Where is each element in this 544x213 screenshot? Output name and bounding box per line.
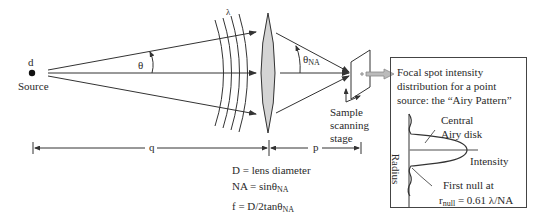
theta-arc xyxy=(150,52,153,73)
source-symbol: d xyxy=(28,56,34,68)
first-null-equation: rnull = 0.61 λ/NA xyxy=(439,194,513,210)
wavelength-label: λ xyxy=(226,6,230,18)
inset-caption: Focal spot intensity distribution for a … xyxy=(397,65,512,107)
equations: D = lens diameter NA = sinθNA f = D/2tan… xyxy=(232,162,311,213)
theta-na-label: θNA xyxy=(303,53,320,69)
theta-label: θ xyxy=(138,59,143,71)
distance-q: q xyxy=(147,141,157,153)
source-dot xyxy=(29,70,35,76)
eq-na: NA = sinθNA xyxy=(232,178,311,198)
output-rays xyxy=(276,33,349,113)
first-null-label: First null at xyxy=(443,179,494,191)
distance-p: p xyxy=(311,141,321,153)
lens xyxy=(261,13,275,133)
radius-label: Radius xyxy=(390,154,402,185)
eq-lens-diameter: D = lens diameter xyxy=(232,162,311,178)
intensity-label: Intensity xyxy=(470,155,509,167)
stage-label: Sample scanning stage xyxy=(330,106,369,145)
eq-focal-length: f = D/2tanθNA xyxy=(232,198,311,213)
theta-na-arc xyxy=(296,46,300,73)
source-label: Source xyxy=(18,80,49,92)
central-airy-label: Central Airy disk xyxy=(441,113,482,141)
